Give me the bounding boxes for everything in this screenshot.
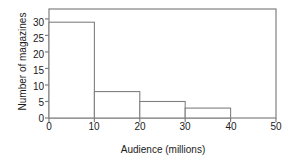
y-axis-tick-labels: 0 5 10 15 20 25 30 (18, 0, 44, 165)
y-tick-label: 30 (22, 18, 44, 28)
x-tick-label: 30 (173, 122, 197, 132)
histogram-bar (185, 108, 230, 118)
x-tick-label: 50 (264, 122, 288, 132)
x-tick-label: 10 (82, 122, 106, 132)
x-tick-label: 40 (219, 122, 243, 132)
y-tick-label: 5 (22, 98, 44, 108)
x-axis-label: Audience (millions) (49, 144, 277, 155)
histogram-bar (49, 22, 94, 118)
x-tick-label: 20 (128, 122, 152, 132)
histogram-bars (49, 22, 231, 118)
x-tick-label: 0 (37, 122, 61, 132)
histogram-bar (140, 101, 185, 118)
histogram-bar (94, 92, 139, 118)
y-tick-label: 10 (22, 82, 44, 92)
histogram-chart: Number of magazines 0 5 10 15 20 25 30 0… (0, 0, 293, 165)
y-tick-label: 25 (22, 34, 44, 44)
y-tick-label: 15 (22, 66, 44, 76)
y-tick-label: 20 (22, 50, 44, 60)
